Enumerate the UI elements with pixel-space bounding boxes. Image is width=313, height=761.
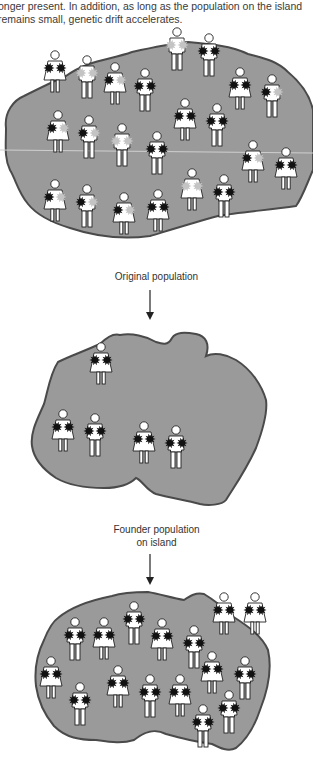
- leg-icon: [204, 60, 208, 76]
- leg-icon: [225, 622, 228, 634]
- head-icon: [176, 675, 184, 683]
- leg-icon: [90, 142, 94, 158]
- label-founder-population-line-1: Founder population: [0, 523, 313, 536]
- head-icon: [76, 683, 84, 691]
- leg-icon: [76, 644, 80, 660]
- leg-icon: [225, 201, 229, 217]
- leg-icon: [64, 439, 67, 451]
- leg-icon: [236, 97, 239, 109]
- head-icon: [249, 141, 257, 149]
- leg-icon: [212, 130, 216, 146]
- head-icon: [47, 657, 55, 665]
- head-icon: [100, 618, 108, 626]
- leg-icon: [193, 198, 196, 210]
- head-icon: [220, 593, 228, 601]
- head-icon: [158, 619, 166, 627]
- leg-icon: [198, 731, 202, 747]
- head-icon: [83, 185, 91, 193]
- head-icon: [71, 618, 79, 626]
- leg-icon: [82, 211, 86, 227]
- leg-icon: [105, 647, 108, 659]
- leg-icon: [181, 128, 184, 140]
- leg-icon: [195, 652, 199, 668]
- leg-icon: [224, 717, 228, 733]
- head-icon: [153, 132, 161, 140]
- head-icon: [120, 193, 128, 201]
- head-icon: [154, 190, 162, 198]
- head-icon: [213, 104, 221, 112]
- head-icon: [85, 116, 93, 124]
- leg-icon: [54, 140, 57, 152]
- leg-icon: [254, 170, 257, 182]
- head-icon: [140, 422, 148, 430]
- leg-icon: [158, 648, 161, 660]
- leg-icon: [59, 439, 62, 451]
- leg-icon: [129, 628, 133, 644]
- head-icon: [59, 410, 67, 418]
- head-icon: [141, 69, 149, 77]
- leg-icon: [230, 717, 234, 733]
- head-icon: [51, 180, 59, 188]
- leg-icon: [249, 170, 252, 182]
- leg-icon: [140, 95, 144, 111]
- leg-icon: [152, 158, 156, 174]
- leg-icon: [100, 647, 103, 659]
- leg-icon: [210, 60, 214, 76]
- founder-island: [32, 333, 267, 505]
- leg-icon: [117, 150, 121, 166]
- leg-icon: [240, 683, 244, 699]
- leg-icon: [97, 372, 100, 384]
- leg-icon: [119, 695, 122, 707]
- head-icon: [199, 705, 207, 713]
- leg-icon: [146, 95, 150, 111]
- leg-icon: [220, 622, 223, 634]
- leg-icon: [204, 731, 208, 747]
- leg-icon: [176, 704, 179, 716]
- leg-icon: [181, 704, 184, 716]
- leg-icon: [81, 709, 85, 725]
- leg-icon: [114, 695, 117, 707]
- leg-icon: [158, 158, 162, 174]
- head-icon: [241, 657, 249, 665]
- leg-icon: [151, 701, 155, 717]
- head-icon: [188, 169, 196, 177]
- head-icon: [118, 124, 126, 132]
- leg-icon: [177, 452, 181, 468]
- leg-icon: [246, 683, 250, 699]
- arrow-2-head: [146, 577, 154, 585]
- descendant-island: [35, 592, 269, 750]
- head-icon: [251, 593, 259, 601]
- leg-icon: [52, 686, 55, 698]
- leg-icon: [282, 177, 285, 189]
- leg-icon: [218, 130, 222, 146]
- head-icon: [282, 148, 290, 156]
- leg-icon: [75, 709, 79, 725]
- leg-icon: [178, 54, 182, 70]
- leg-icon: [56, 209, 59, 221]
- leg-icon: [172, 54, 176, 70]
- leg-icon: [251, 622, 254, 634]
- head-icon: [114, 666, 122, 674]
- leg-icon: [213, 681, 216, 693]
- leg-icon: [256, 622, 259, 634]
- label-original-population: Original population: [0, 270, 313, 283]
- leg-icon: [188, 198, 191, 210]
- leg-icon: [267, 101, 271, 117]
- head-icon: [146, 675, 154, 683]
- leg-icon: [84, 142, 88, 158]
- leg-icon: [56, 80, 59, 92]
- leg-icon: [51, 209, 54, 221]
- founder-effect-diagram: [0, 0, 313, 761]
- leg-icon: [125, 222, 128, 234]
- head-icon: [130, 602, 138, 610]
- leg-icon: [51, 80, 54, 92]
- leg-icon: [47, 686, 50, 698]
- leg-icon: [154, 219, 157, 231]
- head-icon: [111, 63, 119, 71]
- head-icon: [225, 691, 233, 699]
- head-icon: [208, 652, 216, 660]
- head-icon: [97, 343, 105, 351]
- leg-icon: [145, 451, 148, 463]
- leg-icon: [273, 101, 277, 117]
- leg-icon: [120, 222, 123, 234]
